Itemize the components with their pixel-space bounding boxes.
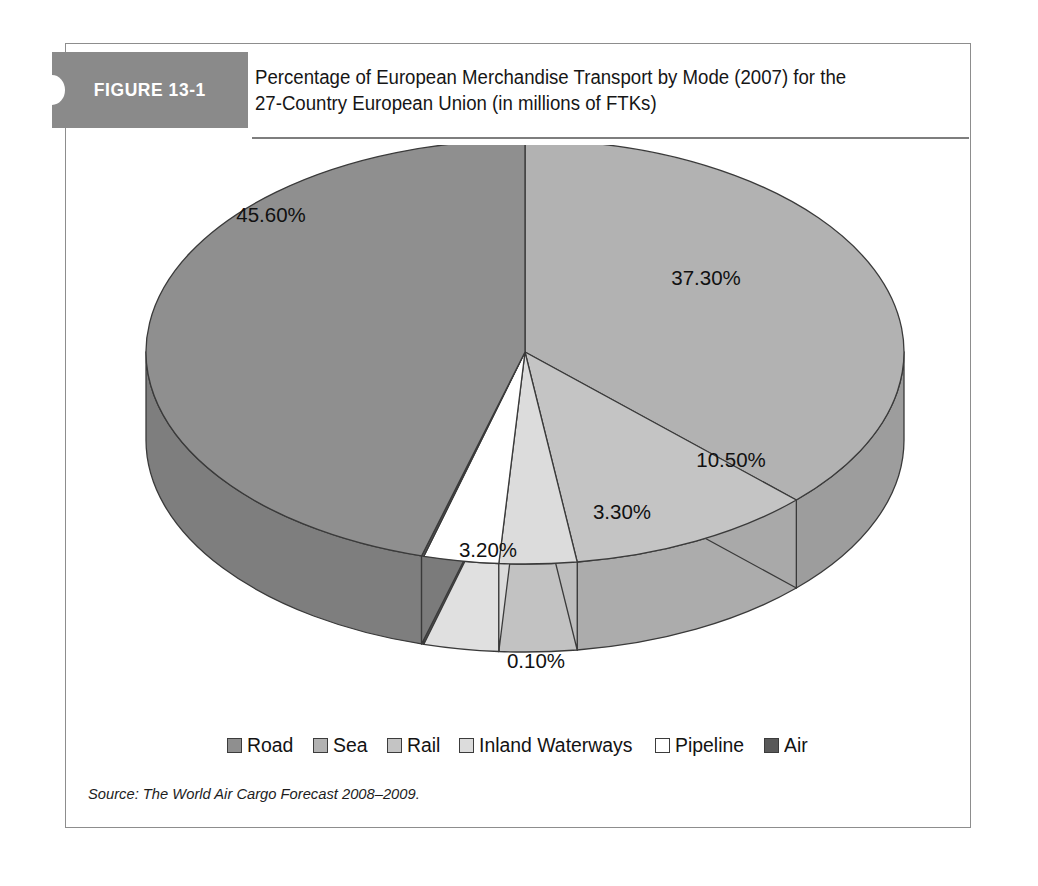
legend-swatch-icon (313, 738, 328, 753)
band-notch-icon (39, 75, 65, 105)
figure-title-line-1: Percentage of European Merchandise Trans… (255, 64, 924, 90)
pie-label-pipeline: 3.20% (459, 538, 517, 561)
legend-label: Inland Waterways (479, 734, 632, 757)
figure-title-line-2: 27-Country European Union (in millions o… (255, 90, 924, 116)
legend-swatch-icon (227, 738, 242, 753)
pie-label-sea: 37.30% (671, 266, 741, 289)
chart-legend: RoadSeaRailInland WaterwaysPipelineAir (66, 730, 970, 760)
legend-item: Pipeline (655, 734, 746, 757)
legend-item: Rail (387, 734, 441, 757)
legend-label: Sea (333, 734, 368, 757)
figure-number-label: FIGURE 13-1 (94, 79, 206, 101)
source-note: Source: The World Air Cargo Forecast 200… (88, 785, 420, 803)
pie-label-air: 0.10% (507, 649, 565, 672)
legend-item: Sea (313, 734, 369, 757)
legend-swatch-icon (459, 738, 474, 753)
figure-title: Percentage of European Merchandise Trans… (255, 52, 955, 128)
legend-swatch-icon (387, 738, 402, 753)
legend-label: Pipeline (675, 734, 744, 757)
pie-label-road: 45.60% (236, 203, 306, 226)
legend-item: Inland Waterways (459, 734, 637, 757)
pie-chart-svg: 37.30%10.50%3.30%3.20%0.10%45.60% (66, 145, 970, 725)
figure-number-band: FIGURE 13-1 (52, 52, 248, 128)
pie-label-rail: 10.50% (696, 448, 766, 471)
legend-item: Air (764, 734, 808, 757)
legend-label: Road (247, 734, 293, 757)
legend-swatch-icon (764, 738, 779, 753)
legend-label: Air (784, 734, 808, 757)
legend-item: Road (227, 734, 295, 757)
header-divider (252, 137, 969, 139)
pie-chart: 37.30%10.50%3.30%3.20%0.10%45.60% (66, 145, 970, 725)
legend-swatch-icon (655, 738, 670, 753)
figure-screenshot: FIGURE 13-1 Percentage of European Merch… (0, 0, 1038, 886)
pie-label-inland-waterways: 3.30% (593, 500, 651, 523)
legend-label: Rail (407, 734, 440, 757)
